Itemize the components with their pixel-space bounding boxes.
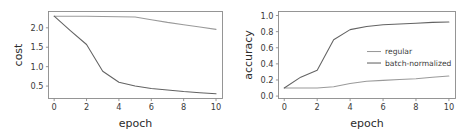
x-axis-title: epoch <box>350 117 384 130</box>
series-line-regular <box>54 16 216 29</box>
y-tick-label: 0.0 <box>260 91 273 101</box>
accuracy-chart-panel: 02468100.00.20.40.60.81.0epochaccuracyre… <box>235 0 470 137</box>
x-tick-label: 6 <box>380 102 385 112</box>
x-tick-label: 10 <box>211 102 221 112</box>
y-tick-label: 0.6 <box>260 43 273 53</box>
legend-label-batch-normalized: batch-normalized <box>385 59 452 68</box>
series-line-regular <box>284 76 449 88</box>
x-tick-label: 8 <box>413 102 418 112</box>
x-tick-label: 2 <box>84 102 89 112</box>
cost-chart-panel: 02468100.51.01.52.0epochcost <box>0 0 235 137</box>
y-tick-label: 0.2 <box>260 75 273 85</box>
y-axis-title: cost <box>12 43 25 67</box>
figure-canvas: 02468100.51.01.52.0epochcost 02468100.00… <box>0 0 470 137</box>
x-tick-label: 4 <box>348 102 353 112</box>
x-tick-label: 4 <box>116 102 121 112</box>
y-tick-label: 2.0 <box>30 23 43 33</box>
y-tick-label: 1.0 <box>30 62 43 72</box>
cost-chart-svg: 02468100.51.01.52.0epochcost <box>0 0 235 137</box>
accuracy-chart-svg: 02468100.00.20.40.60.81.0epochaccuracyre… <box>235 0 470 137</box>
x-tick-label: 0 <box>282 102 287 112</box>
plot-frame <box>49 12 223 99</box>
x-tick-label: 0 <box>52 102 57 112</box>
legend-label-regular: regular <box>385 47 413 56</box>
x-tick-label: 6 <box>149 102 154 112</box>
y-tick-label: 0.5 <box>30 81 43 91</box>
x-axis-title: epoch <box>119 117 153 130</box>
x-tick-label: 8 <box>181 102 186 112</box>
y-tick-label: 1.0 <box>260 11 273 21</box>
x-tick-label: 2 <box>315 102 320 112</box>
y-tick-label: 0.4 <box>260 59 273 69</box>
x-tick-label: 10 <box>444 102 454 112</box>
y-axis-title: accuracy <box>242 30 255 80</box>
plot-frame <box>279 12 456 99</box>
series-line-batch-normalized <box>54 16 216 94</box>
y-tick-label: 1.5 <box>30 42 43 52</box>
y-tick-label: 0.8 <box>260 27 273 37</box>
